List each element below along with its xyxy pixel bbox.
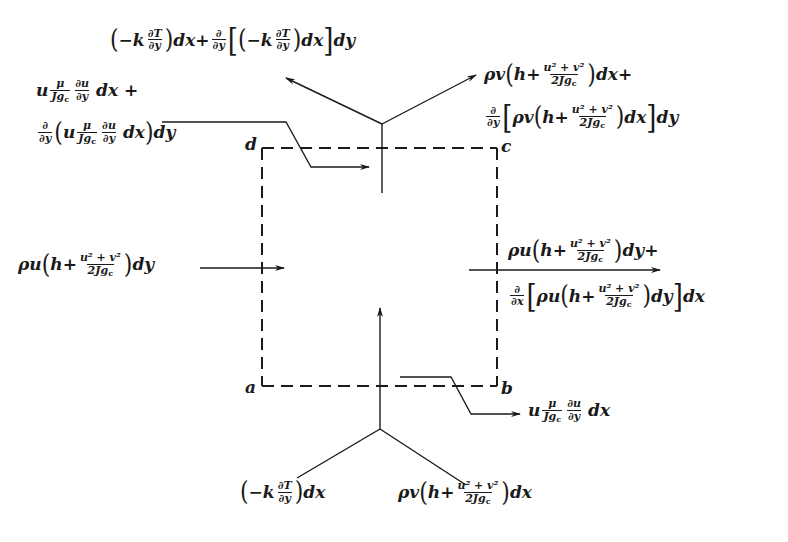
bottom-convection-label: ρv(h+ u² + v²2Jgc )dx <box>398 480 532 505</box>
bottom-conduction-label: (−k ∂T∂y )dx <box>240 480 325 505</box>
top-conduction-label: (−k ∂T∂y )dx+ ∂∂y [(−k ∂T∂y )dx]dy <box>110 27 355 53</box>
bottom-flux-arrows <box>297 308 466 485</box>
bottom-shear-label: u μJgc ∂u∂y dx <box>528 398 610 423</box>
top-shear-label-line1: u μJgc ∂u∂y dx + <box>36 78 138 103</box>
corner-label-d: d <box>245 134 257 154</box>
top-shear-arrow <box>162 122 369 167</box>
right-convection-label-line2: ∂∂x [ρu(h+ u² + v²2Jgc )dy]dx <box>508 283 705 309</box>
top-convection-label-line2: ∂∂y [ρv(h+ u² + v²2Jgc )dx]dy <box>484 104 678 130</box>
right-convection-label-line1: ρu(h+ u² + v²2Jgc )dy+ <box>508 238 658 263</box>
corner-label-c: c <box>501 136 511 156</box>
top-shear-label-line2: ∂∂y (u μJgc ∂u∂y dx)dy <box>36 120 175 145</box>
top-flux-arrows <box>286 75 476 193</box>
corner-label-a: a <box>245 377 256 397</box>
top-convection-label-line1: ρv(h+ u² + v²2Jgc )dx+ <box>484 62 632 87</box>
left-convection-label: ρu(h+ u² + v²2Jgc )dy <box>18 252 154 277</box>
corner-label-b: b <box>501 378 513 398</box>
